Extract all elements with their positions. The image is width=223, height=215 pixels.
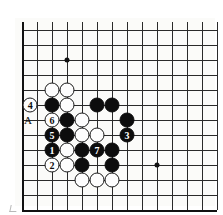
stone-white[interactable] <box>75 113 90 128</box>
stone-white[interactable] <box>105 173 120 188</box>
move-stone-black-7[interactable]: 7 <box>90 143 105 158</box>
stone-black[interactable] <box>75 143 90 158</box>
move-stone-black-5[interactable]: 5 <box>45 128 60 143</box>
grid-line-vertical <box>157 22 158 210</box>
stone-black[interactable] <box>75 158 90 173</box>
move-stone-white-6[interactable]: 6 <box>45 113 60 128</box>
stone-black[interactable] <box>105 98 120 113</box>
grid-line-vertical <box>217 22 218 210</box>
move-stone-black-1[interactable]: 1 <box>45 143 60 158</box>
stone-black[interactable] <box>45 98 60 113</box>
go-board[interactable]: 6531724A <box>15 18 215 206</box>
stone-white[interactable] <box>45 83 60 98</box>
star-point <box>155 163 160 168</box>
star-point <box>65 58 70 63</box>
stone-black[interactable] <box>105 158 120 173</box>
move-stone-white-2[interactable]: 2 <box>45 158 60 173</box>
board-edge-bottom <box>22 210 217 212</box>
stone-black[interactable] <box>60 128 75 143</box>
stone-black[interactable] <box>90 98 105 113</box>
grid-line-vertical <box>187 22 188 210</box>
move-stone-black-3[interactable]: 3 <box>120 128 135 143</box>
grid-line-vertical <box>172 22 173 210</box>
stone-black[interactable] <box>105 143 120 158</box>
stone-white[interactable] <box>60 98 75 113</box>
grid-line-vertical <box>202 22 203 210</box>
move-marker-4[interactable]: 4 <box>23 98 38 113</box>
stone-black[interactable] <box>60 113 75 128</box>
go-diagram-page: 6531724A <box>0 0 223 215</box>
point-label-A: A <box>24 115 32 126</box>
stone-white[interactable] <box>90 173 105 188</box>
stone-white[interactable] <box>75 173 90 188</box>
grid-line-vertical <box>142 22 143 210</box>
stone-black[interactable] <box>120 113 135 128</box>
stone-white[interactable] <box>60 83 75 98</box>
corner-tick-mark <box>9 205 17 212</box>
grid-line-vertical <box>37 22 38 210</box>
stone-white[interactable] <box>60 158 75 173</box>
stone-white[interactable] <box>75 128 90 143</box>
stone-white[interactable] <box>90 128 105 143</box>
stone-white[interactable] <box>60 143 75 158</box>
